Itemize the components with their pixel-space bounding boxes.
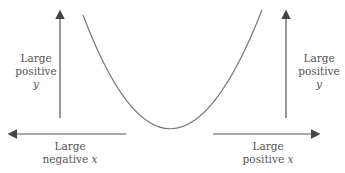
label-line: Large <box>40 140 100 153</box>
right-x-label: Large positive x <box>238 140 298 166</box>
parabola-curve <box>83 10 262 129</box>
label-line: Large <box>14 52 58 65</box>
label-line: positive y <box>294 65 344 91</box>
right-y-label: Large positive y <box>294 52 344 91</box>
label-line: Large <box>238 140 298 153</box>
left-x-label: Large negative x <box>40 140 100 166</box>
left-y-label: Large positive y <box>14 52 58 91</box>
label-line: Large <box>294 52 344 65</box>
label-line: negative x <box>40 153 100 166</box>
label-line: positive x <box>238 153 298 166</box>
label-line: positive y <box>14 65 58 91</box>
